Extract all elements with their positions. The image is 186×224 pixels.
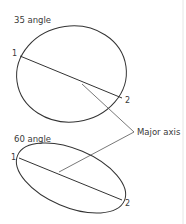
top-point-2: 2 — [125, 96, 130, 105]
top-major-axis — [20, 56, 122, 98]
top-point-1: 1 — [12, 49, 17, 58]
leader-line-top — [82, 84, 134, 132]
major-axis-label: Major axis — [137, 127, 181, 137]
leader-line-bottom — [59, 132, 134, 172]
top-title: 35 angle — [14, 15, 51, 25]
bottom-point-2: 2 — [125, 199, 130, 208]
top-ellipse — [10, 19, 132, 129]
ellipse-angle-diagram: 35 angle 1 2 Major axis 60 angle 1 2 — [0, 0, 186, 224]
bottom-major-axis — [19, 158, 122, 200]
bottom-point-1: 1 — [11, 153, 16, 162]
